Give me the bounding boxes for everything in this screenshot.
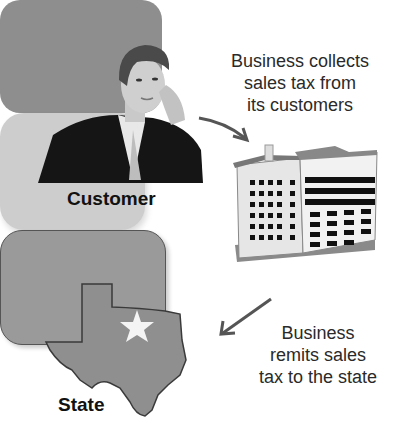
caption-line: sales tax from — [215, 72, 385, 94]
caption-line: its customers — [215, 94, 385, 116]
office-building-icon — [225, 140, 385, 270]
caption-line: Business collects — [215, 50, 385, 72]
caption-line: Business — [238, 322, 398, 344]
caption-line: tax to the state — [238, 366, 398, 388]
caption-remits: Business remits sales tax to the state — [238, 322, 398, 388]
state-label: State — [58, 394, 104, 416]
customer-label: Customer — [67, 188, 156, 210]
caption-collects: Business collects sales tax from its cus… — [215, 50, 385, 116]
caption-line: remits sales — [238, 344, 398, 366]
businessman-icon — [33, 40, 208, 185]
